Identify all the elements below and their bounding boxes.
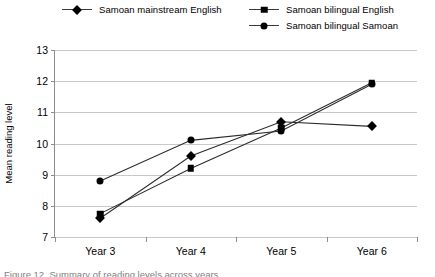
x-axis-tick-label: Year 3	[85, 246, 115, 257]
y-axis-tick-label: 11	[37, 107, 48, 118]
diamond-marker-icon	[72, 5, 82, 15]
y-axis-tick-label: 8	[42, 201, 48, 212]
circle-marker-icon	[261, 22, 268, 29]
y-axis-tick-label: 12	[36, 76, 48, 87]
x-axis-tick	[55, 237, 56, 242]
x-axis-tick	[146, 237, 147, 242]
legend-label: Samoan bilingual Samoan	[286, 20, 398, 31]
legend-entry-samoan-bilingual-english: Samoan bilingual English	[249, 4, 394, 15]
x-axis-tick-label: Year 5	[266, 246, 296, 257]
legend-label: Samoan mainstream English	[99, 4, 222, 15]
legend-entry-samoan-mainstream-english: Samoan mainstream English	[62, 4, 222, 15]
chart-legend: Samoan mainstream English Samoan bilingu…	[0, 0, 435, 40]
x-axis-tick	[327, 237, 328, 242]
data-point-square	[97, 210, 104, 217]
legend-swatch-diamond	[62, 4, 92, 15]
data-point-circle	[97, 177, 104, 184]
y-axis-title: Mean reading level	[2, 50, 15, 237]
plot-area: 78910111213 Year 3Year 4Year 5Year 6	[55, 50, 417, 237]
legend-swatch-circle	[249, 20, 279, 31]
series-markers	[55, 50, 417, 237]
y-axis-tick-label: 7	[42, 232, 48, 243]
y-axis-tick-label: 13	[36, 45, 48, 56]
data-point-square	[188, 165, 195, 172]
legend-label: Samoan bilingual English	[286, 4, 394, 15]
data-point-diamond	[186, 151, 196, 161]
data-point-circle	[187, 137, 194, 144]
x-axis-tick	[417, 237, 418, 242]
data-point-diamond	[367, 121, 377, 131]
y-axis-tick-label: 10	[36, 138, 48, 149]
data-point-circle	[278, 128, 285, 135]
x-axis-tick-label: Year 4	[176, 246, 206, 257]
x-axis-tick	[236, 237, 237, 242]
figure-caption: Figure 12. Summary of reading levels acr…	[4, 269, 434, 277]
data-point-circle	[368, 81, 375, 88]
legend-entry-samoan-bilingual-samoan: Samoan bilingual Samoan	[249, 20, 398, 31]
y-axis-tick-label: 9	[42, 169, 48, 180]
square-marker-icon	[261, 6, 268, 13]
x-axis-tick-label: Year 6	[357, 246, 387, 257]
legend-swatch-square	[249, 4, 279, 15]
